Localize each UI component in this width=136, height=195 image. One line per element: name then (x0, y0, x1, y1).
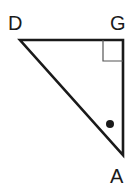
vertex-label-a: A (110, 166, 123, 186)
geometry-figure: D G A (0, 0, 136, 195)
angle-dot-marker-at-A (106, 120, 114, 128)
triangle-DGA (20, 40, 123, 155)
vertex-label-d: D (8, 13, 22, 33)
vertex-label-g: G (110, 13, 126, 33)
